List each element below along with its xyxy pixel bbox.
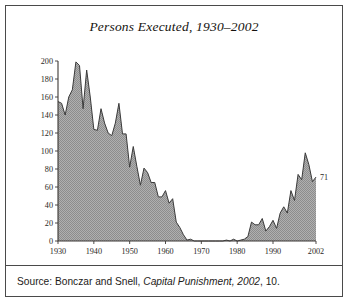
y-tick-label: 0: [49, 237, 53, 246]
y-tick-label: 80: [45, 165, 53, 174]
x-tick-label: 1950: [121, 247, 137, 256]
area-chart-svg: 0204060801001201401601802001930194019501…: [6, 6, 344, 264]
x-tick-label: 1970: [193, 247, 209, 256]
y-tick-label: 160: [41, 93, 53, 102]
source-title: Capital Punishment, 2002: [143, 276, 260, 287]
y-tick-label: 100: [41, 147, 53, 156]
y-tick-label: 60: [45, 183, 53, 192]
source-panel: Source: Bonczar and Snell, Capital Punis…: [6, 266, 342, 296]
y-tick-label: 20: [45, 219, 53, 228]
y-tick-label: 120: [41, 129, 53, 138]
source-prefix: Source: Bonczar and Snell,: [17, 276, 143, 287]
x-tick-label: 1980: [229, 247, 245, 256]
x-tick-label: 1960: [157, 247, 173, 256]
y-tick-label: 180: [41, 75, 53, 84]
x-tick-label: 1990: [265, 247, 281, 256]
area-fill: [58, 62, 316, 241]
chart-panel: Persons Executed, 1930–2002 020406080100…: [6, 6, 342, 266]
x-tick-label: 1930: [50, 247, 66, 256]
figure-container: Persons Executed, 1930–2002 020406080100…: [5, 5, 343, 297]
source-suffix: , 10.: [260, 276, 280, 287]
y-tick-label: 40: [45, 201, 53, 210]
annotations: 71: [320, 173, 328, 182]
x-tick-label: 2002: [308, 247, 324, 256]
x-tick-label: 1940: [86, 247, 102, 256]
source-caption: Source: Bonczar and Snell, Capital Punis…: [6, 276, 280, 287]
data-series: [58, 62, 316, 241]
y-tick-label: 140: [41, 111, 53, 120]
plot-area: 0204060801001201401601802001930194019501…: [6, 6, 344, 264]
data-value-annotation: 71: [320, 173, 328, 182]
y-tick-label: 200: [41, 57, 53, 66]
